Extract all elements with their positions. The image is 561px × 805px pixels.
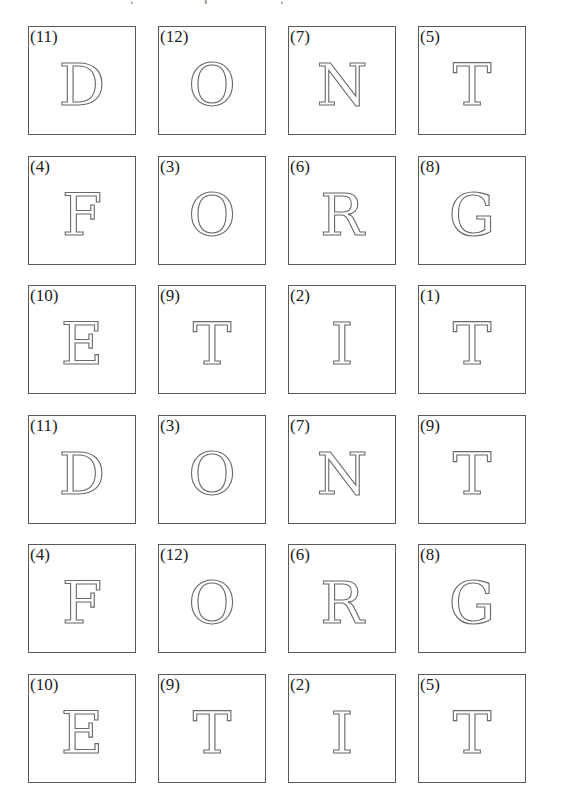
letter-tile: (8) G [418, 156, 526, 265]
letter-tile: (10) E [28, 285, 136, 394]
tile-number: (2) [290, 675, 310, 695]
letter-tile: (5) T [418, 674, 526, 783]
letter-tile: (6) R [288, 544, 396, 653]
tile-letter: O [159, 53, 265, 117]
tile-number: (3) [160, 416, 180, 436]
tile-letter: T [419, 312, 525, 376]
tile-number: (9) [420, 416, 440, 436]
tile-number: (6) [290, 545, 310, 565]
tile-number: (7) [290, 27, 310, 47]
tile-number: (5) [420, 675, 440, 695]
letter-tile: (3) O [158, 415, 266, 524]
letter-tile: (9) T [418, 415, 526, 524]
letter-tile: (4) F [28, 156, 136, 265]
tile-number: (7) [290, 416, 310, 436]
tile-number: (9) [160, 675, 180, 695]
tile-number: (4) [30, 545, 50, 565]
tile-letter: T [159, 312, 265, 376]
tile-number: (5) [420, 27, 440, 47]
letter-tile: (12) O [158, 26, 266, 135]
tile-letter: G [419, 183, 525, 247]
tile-letter: R [289, 183, 395, 247]
letter-tile: (4) F [28, 544, 136, 653]
tile-letter: E [29, 312, 135, 376]
clipped-glyph: ʒ [200, 0, 207, 4]
letter-tile: (2) I [288, 285, 396, 394]
tile-letter: F [29, 183, 135, 247]
tile-number: (10) [30, 675, 58, 695]
clipped-header-text: ˛ ʒ ˛ [0, 0, 561, 4]
letter-tile: (9) T [158, 674, 266, 783]
letter-tile: (10) E [28, 674, 136, 783]
tile-letter: T [419, 53, 525, 117]
tile-number: (3) [160, 157, 180, 177]
tile-number: (4) [30, 157, 50, 177]
tile-number: (10) [30, 286, 58, 306]
letter-tile: (11) D [28, 415, 136, 524]
letter-tile: (7) N [288, 26, 396, 135]
tile-number: (9) [160, 286, 180, 306]
tile-letter: G [419, 571, 525, 635]
tile-letter: D [29, 53, 135, 117]
tile-letter: T [159, 701, 265, 765]
tile-letter: N [289, 53, 395, 117]
tile-number: (8) [420, 545, 440, 565]
letter-tile: (3) O [158, 156, 266, 265]
tile-number: (8) [420, 157, 440, 177]
tile-letter: O [159, 183, 265, 247]
letter-tile: (9) T [158, 285, 266, 394]
tile-number: (12) [160, 545, 188, 565]
tile-letter: I [289, 701, 395, 765]
letter-tile: (5) T [418, 26, 526, 135]
letter-tile: (6) R [288, 156, 396, 265]
tile-number: (12) [160, 27, 188, 47]
tile-number: (6) [290, 157, 310, 177]
tile-letter: F [29, 571, 135, 635]
letter-tile: (11) D [28, 26, 136, 135]
tile-number: (11) [30, 416, 58, 436]
tile-letter: N [289, 442, 395, 506]
letter-tile: (2) I [288, 674, 396, 783]
clipped-glyph: ˛ [130, 0, 135, 4]
tile-number: (1) [420, 286, 440, 306]
tile-letter: E [29, 701, 135, 765]
tile-letter: R [289, 571, 395, 635]
tile-number: (11) [30, 27, 58, 47]
letter-tile: (7) N [288, 415, 396, 524]
tile-letter: I [289, 312, 395, 376]
tile-letter: O [159, 571, 265, 635]
clipped-glyph: ˛ [280, 0, 285, 4]
tile-letter: D [29, 442, 135, 506]
tile-letter: T [419, 442, 525, 506]
tile-letter: O [159, 442, 265, 506]
letter-tile: (8) G [418, 544, 526, 653]
letter-tile: (1) T [418, 285, 526, 394]
tile-number: (2) [290, 286, 310, 306]
letter-tile: (12) O [158, 544, 266, 653]
tile-letter: T [419, 701, 525, 765]
